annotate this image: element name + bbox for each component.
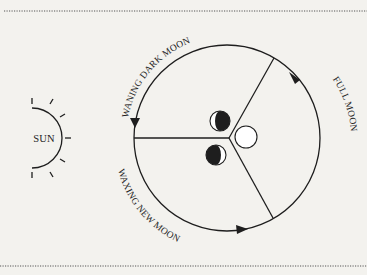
waning-moon-icon: [210, 111, 230, 131]
full-moon-label: FULL MOON: [331, 75, 359, 133]
moon-phase-diagram: SUN WANING DARK MOON WAXING: [0, 0, 367, 275]
arrow-icon-bottom: [236, 225, 248, 234]
arrow-icon-left: [130, 118, 140, 128]
waxing-new-moon-label: WAXING NEW MOON: [116, 168, 182, 244]
waning-dark-moon-label: WANING DARK MOON: [120, 35, 192, 118]
sun-label: SUN: [33, 133, 55, 144]
waxing-moon-icon: [206, 145, 226, 165]
diagram-canvas: SUN WANING DARK MOON WAXING: [0, 0, 367, 275]
full-moon-icon: [235, 126, 257, 148]
